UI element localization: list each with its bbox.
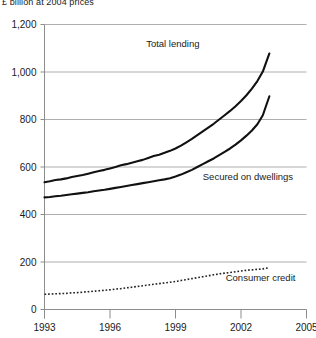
y-tick-label: 0: [31, 304, 37, 315]
y-tick-label: 400: [20, 209, 37, 220]
x-tick-label: 1999: [164, 322, 187, 333]
series-label-secured-on-dwellings: Secured on dwellings: [203, 171, 294, 182]
series-line: [45, 96, 270, 197]
x-tick-label: 2005: [295, 322, 316, 333]
chart-canvas: 02004006008001,0001,200 1993199619992002…: [0, 0, 316, 338]
x-tick-label: 1993: [33, 322, 56, 333]
series-annotations-group: Total lendingSecured on dwellingsConsume…: [146, 38, 296, 283]
y-tick-label: 200: [20, 257, 37, 268]
series-label-consumer-credit: Consumer credit: [226, 272, 296, 283]
series-label-total-lending: Total lending: [146, 38, 199, 49]
x-tick-label: 1996: [99, 322, 122, 333]
x-tick-label: 2002: [230, 322, 253, 333]
y-tick-label: 600: [20, 162, 37, 173]
y-tick-label: 1,200: [11, 19, 36, 30]
lending-line-chart: £ billion at 2004 prices 02004006008001,…: [0, 0, 316, 338]
x-axis-labels-group: 19931996199920022005: [33, 322, 316, 333]
y-tick-label: 800: [20, 114, 37, 125]
series-line: [45, 53, 270, 182]
y-tick-label: 1,000: [11, 67, 36, 78]
y-axis-labels-group: 02004006008001,0001,200: [11, 19, 36, 315]
